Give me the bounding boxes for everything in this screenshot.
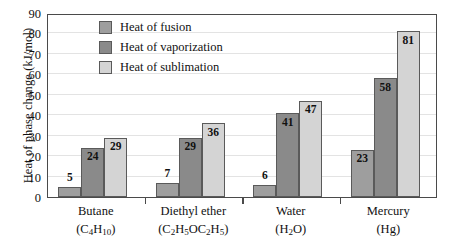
legend-label: Heat of fusion <box>120 20 192 35</box>
category-name: Mercury <box>367 204 410 218</box>
bar-value-label: 24 <box>81 151 104 163</box>
legend-label: Heat of vaporization <box>120 40 223 55</box>
bar[interactable] <box>58 187 81 197</box>
legend-item[interactable]: Heat of vaporization <box>99 39 223 56</box>
bar-value-label: 36 <box>202 127 225 139</box>
bar-value-label: 29 <box>104 141 127 153</box>
category-name: Water <box>276 204 306 218</box>
bar-chart: Heat of phase change (kJ/mol) 0102030405… <box>0 0 450 243</box>
category-label: Mercury(Hg) <box>340 202 438 238</box>
category-formula: (Hg) <box>340 220 438 238</box>
bar-value-label: 29 <box>179 141 202 153</box>
legend-label: Heat of sublimation <box>120 60 219 75</box>
category-label: Diethyl ether(C2H5OC2H5) <box>145 202 243 239</box>
legend-item[interactable]: Heat of sublimation <box>99 59 223 76</box>
y-axis-tick-labels: 0102030405060708090 <box>0 0 44 243</box>
y-tick-label: 50 <box>29 88 42 103</box>
category-name: Diethyl ether <box>160 204 226 218</box>
y-tick-label: 10 <box>29 170 42 185</box>
legend-swatch <box>99 41 112 54</box>
bar[interactable] <box>397 31 420 197</box>
y-tick-label: 60 <box>29 68 42 83</box>
category-axis-labels: Butane(C4H10)Diethyl ether(C2H5OC2H5)Wat… <box>47 202 437 243</box>
bar-value-label: 41 <box>276 117 299 129</box>
bar-group: 235881 <box>341 15 439 197</box>
category-name: Butane <box>78 204 113 218</box>
bar-value-label: 5 <box>58 172 81 184</box>
y-tick-label: 70 <box>29 47 42 62</box>
y-tick-label: 90 <box>29 7 42 22</box>
bar-value-label: 47 <box>299 104 322 116</box>
y-tick-label: 20 <box>29 150 42 165</box>
legend-swatch <box>99 61 112 74</box>
category-label: Water(H2O) <box>242 202 340 239</box>
bar-value-label: 6 <box>253 170 276 182</box>
y-tick-label: 80 <box>29 27 42 42</box>
category-formula: (H2O) <box>242 220 340 239</box>
bar-value-label: 58 <box>374 82 397 94</box>
bar-value-label: 23 <box>351 153 374 165</box>
category-formula: (C4H10) <box>47 220 145 239</box>
y-tick-label: 30 <box>29 129 42 144</box>
category-label: Butane(C4H10) <box>47 202 145 239</box>
bar-value-label: 7 <box>156 168 179 180</box>
bar-group: 64147 <box>243 15 341 197</box>
chart-legend: Heat of fusionHeat of vaporizationHeat o… <box>99 19 223 79</box>
legend-swatch <box>99 21 112 34</box>
y-tick-label: 40 <box>29 109 42 124</box>
bar[interactable] <box>374 78 397 197</box>
bar-value-label: 81 <box>397 35 420 47</box>
bar[interactable] <box>156 183 179 197</box>
legend-item[interactable]: Heat of fusion <box>99 19 223 36</box>
bar[interactable] <box>253 185 276 197</box>
category-formula: (C2H5OC2H5) <box>145 220 243 239</box>
y-tick-label: 0 <box>35 191 41 206</box>
